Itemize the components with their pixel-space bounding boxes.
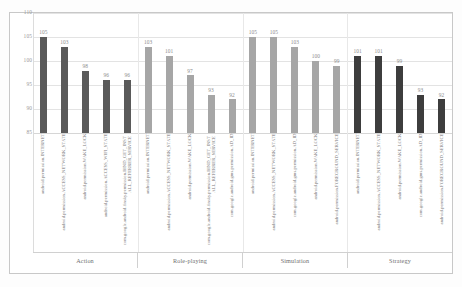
bar-slot[interactable]: 105	[33, 13, 54, 133]
bar-value-label: 105	[270, 30, 278, 35]
label-slot: com.google.android.gms.permission.AD_ID	[222, 134, 243, 247]
bar-value-label: 99	[397, 59, 403, 64]
bar-group: 101101999392	[347, 13, 452, 133]
label-slot: com.google.android.finsky.permission.BIN…	[201, 134, 222, 247]
bar-slot[interactable]: 99	[326, 13, 347, 133]
category-label: android.permission.INTERNET	[355, 133, 360, 243]
category-label: android.permission.WAKE_LOCK	[397, 133, 402, 243]
label-slot: android.permission.INTERNET	[138, 134, 159, 247]
bar-group: 10510510310099	[243, 13, 348, 133]
bar[interactable]	[145, 47, 152, 133]
bar[interactable]	[396, 66, 403, 133]
bar-value-label: 100	[312, 54, 320, 59]
y-axis-tick-label: 90	[26, 106, 32, 111]
bar[interactable]	[103, 80, 110, 133]
bar[interactable]	[208, 95, 215, 133]
bar[interactable]	[291, 47, 298, 133]
bar[interactable]	[333, 66, 340, 133]
bar-slot[interactable]: 93	[201, 13, 222, 133]
y-axis-tick-label: 95	[26, 82, 32, 87]
category-label: android.permission.WAKE_LOCK	[188, 133, 193, 243]
category-label: android.permission.INTERNET	[250, 133, 255, 243]
label-slot: android.permission.FOREGROUND_SERVICE	[431, 134, 452, 247]
bar-slot[interactable]: 93	[410, 13, 431, 133]
category-labels: android.permission.INTERNETandroid.permi…	[33, 134, 452, 247]
bar-slot[interactable]: 101	[347, 13, 368, 133]
bar-slot[interactable]: 96	[96, 13, 117, 133]
bar-slot[interactable]: 96	[117, 13, 138, 133]
bar[interactable]	[375, 56, 382, 133]
bar-value-label: 92	[229, 93, 235, 98]
bar-value-label: 103	[60, 40, 68, 45]
category-label: com.google.android.gms.permission.AD_ID	[418, 133, 423, 243]
bar-slot[interactable]: 105	[243, 13, 264, 133]
bar-value-label: 92	[439, 93, 445, 98]
bar[interactable]	[249, 37, 256, 133]
bar[interactable]	[354, 56, 361, 133]
bar-value-label: 98	[83, 64, 89, 69]
bar[interactable]	[270, 37, 277, 133]
label-slot: android.permission.ACCESS_NETWORK_STATE	[159, 134, 180, 247]
category-label: com.google.android.gms.permission.AD_ID	[229, 133, 234, 243]
category-label: android.permission.ACCESS_NETWORK_STATE	[376, 133, 381, 243]
label-slot: android.permission.WAKE_LOCK	[180, 134, 201, 247]
label-slot: com.google.android.gms.permission.AD_ID	[410, 134, 431, 247]
category-label: android.permission.ACCESS_NETWORK_STATE	[271, 133, 276, 243]
bar-group: 105103989696	[33, 13, 138, 133]
label-slot: com.google.android.gms.permission.AD_ID	[284, 134, 305, 247]
y-axis-tick-label: 105	[24, 34, 32, 39]
bar-group: 103101979392	[138, 13, 243, 133]
bar[interactable]	[124, 80, 131, 133]
category-label: android.permission.FOREGROUND_SERVICE	[439, 133, 444, 243]
bar-value-label: 96	[104, 73, 110, 78]
bar-value-label: 101	[374, 49, 382, 54]
bar-slot[interactable]: 100	[305, 13, 326, 133]
label-slot: android.permission.INTERNET	[347, 134, 368, 247]
bar-slot[interactable]: 103	[284, 13, 305, 133]
bar-value-label: 105	[249, 30, 257, 35]
permissions-bar-chart: 110105100959085 105103989696103101979392…	[0, 0, 462, 287]
bar[interactable]	[187, 75, 194, 133]
bar-slot[interactable]: 98	[75, 13, 96, 133]
bar-slot[interactable]: 99	[389, 13, 410, 133]
y-axis-tick-label: 100	[24, 58, 32, 63]
bar-slot[interactable]: 105	[263, 13, 284, 133]
label-slot: android.permission.INTERNET	[33, 134, 54, 247]
bar-value-label: 93	[418, 88, 424, 93]
category-label: com.google.android.finsky.permission.BIN…	[122, 136, 132, 246]
category-label: android.permission.ACCESS_NETWORK_STATE	[62, 133, 67, 243]
group-name-strategy: Strategy	[348, 253, 452, 268]
category-label: android.permission.FOREGROUND_SERVICE	[334, 133, 339, 243]
bar-slot[interactable]: 103	[54, 13, 75, 133]
category-label: android.permission.INTERNET	[41, 133, 46, 243]
category-label: android.permission.INTERNET	[146, 133, 151, 243]
bar-slot[interactable]: 101	[368, 13, 389, 133]
bar-slot[interactable]: 97	[180, 13, 201, 133]
bar[interactable]	[61, 47, 68, 133]
bar-value-label: 103	[144, 40, 152, 45]
category-label: android.permission.ACCESS_NETWORK_STATE	[167, 133, 172, 243]
category-label: com.google.android.finsky.permission.BIN…	[206, 136, 216, 246]
category-label: com.google.android.gms.permission.AD_ID	[292, 133, 297, 243]
bar-value-label: 99	[334, 59, 340, 64]
bar[interactable]	[82, 71, 89, 133]
label-slot: android.permission.INTERNET	[243, 134, 264, 247]
bar-slot[interactable]: 101	[159, 13, 180, 133]
label-group: android.permission.INTERNETandroid.permi…	[33, 134, 138, 247]
label-slot: android.permission.ACCESS_NETWORK_STATE	[263, 134, 284, 247]
bar[interactable]	[166, 56, 173, 133]
bar-value-label: 101	[165, 49, 173, 54]
plot-area: 1051039896961031019793921051051031009910…	[33, 13, 452, 133]
group-name-action: Action	[33, 253, 138, 268]
group-name-simulation: Simulation	[243, 253, 348, 268]
bar-slot[interactable]: 92	[431, 13, 452, 133]
bar[interactable]	[417, 95, 424, 133]
bar-value-label: 103	[291, 40, 299, 45]
bar[interactable]	[229, 99, 236, 133]
bar[interactable]	[438, 99, 445, 133]
bar-slot[interactable]: 92	[222, 13, 243, 133]
bar[interactable]	[312, 61, 319, 133]
bar-slot[interactable]: 103	[138, 13, 159, 133]
label-group: android.permission.INTERNETandroid.permi…	[243, 134, 348, 247]
bar[interactable]	[40, 37, 47, 133]
